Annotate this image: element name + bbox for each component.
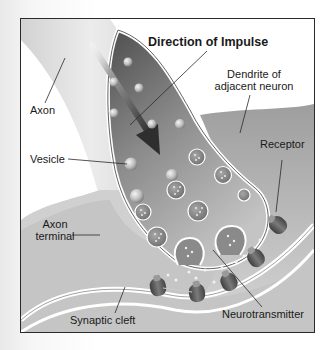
neurotransmitter-label: Neurotransmitter xyxy=(222,308,304,320)
dendrite-label-line2: adjacent neuron xyxy=(210,80,298,92)
axon-terminal-label-line1: Axon xyxy=(35,218,75,230)
synaptic-cleft-label: Synaptic cleft xyxy=(70,314,135,326)
receptor-label: Receptor xyxy=(260,138,305,150)
axon-label: Axon xyxy=(30,104,55,116)
axon-terminal-label-line2: terminal xyxy=(35,230,75,242)
synapse-illustration xyxy=(0,0,330,350)
direction-of-impulse-title: Direction of Impulse xyxy=(148,36,268,48)
dendrite-label-line1: Dendrite of xyxy=(210,68,298,80)
dendrite-label: Dendrite of adjacent neuron xyxy=(210,68,298,92)
vesicle-label: Vesicle xyxy=(30,153,65,165)
axon-terminal-label: Axon terminal xyxy=(35,218,75,242)
